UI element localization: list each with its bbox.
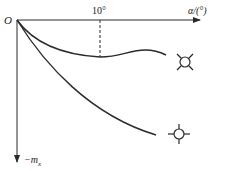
y-axis-subscript: x [38,160,41,168]
tick-label: 10° [92,6,106,16]
y-axis-label-text: −m [24,154,38,165]
moment-diagram [0,0,225,171]
lower-curve [17,20,156,135]
x-cross-circle-icon [177,54,193,70]
x-axis-label: α/(°) [188,6,207,16]
y-axis-label: −mx [24,155,41,169]
origin-label: O [4,15,12,25]
plus-cross-circle-icon [168,124,190,144]
